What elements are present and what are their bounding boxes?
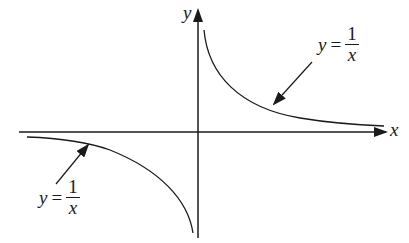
equation-lhs: y [318, 35, 326, 54]
equation-lhs: y [39, 188, 47, 207]
pointer-arrow-upper [274, 62, 312, 104]
y-axis-label: y [183, 3, 191, 22]
hyperbola-diagram: y x y = 1 x y = 1 x [0, 0, 409, 243]
fraction: 1 x [66, 177, 80, 218]
equation-equals: = [330, 35, 341, 54]
fraction: 1 x [345, 24, 359, 65]
fraction-denominator: x [348, 45, 356, 65]
x-axis-label: x [390, 120, 398, 139]
equation-equals: = [51, 188, 62, 207]
equation-label-lower: y = 1 x [39, 177, 80, 218]
fraction-numerator: 1 [66, 177, 80, 198]
fraction-denominator: x [69, 198, 77, 218]
fraction-numerator: 1 [345, 24, 359, 45]
equation-label-upper: y = 1 x [318, 24, 359, 65]
